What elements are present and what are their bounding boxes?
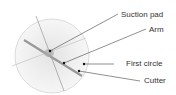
label-arm: Arm <box>149 25 164 34</box>
label-cutter: Cutter <box>144 76 166 85</box>
label-suction-pad: Suction pad <box>121 10 163 19</box>
suction-pad <box>44 49 54 57</box>
label-first-circle: First circle <box>126 59 162 68</box>
